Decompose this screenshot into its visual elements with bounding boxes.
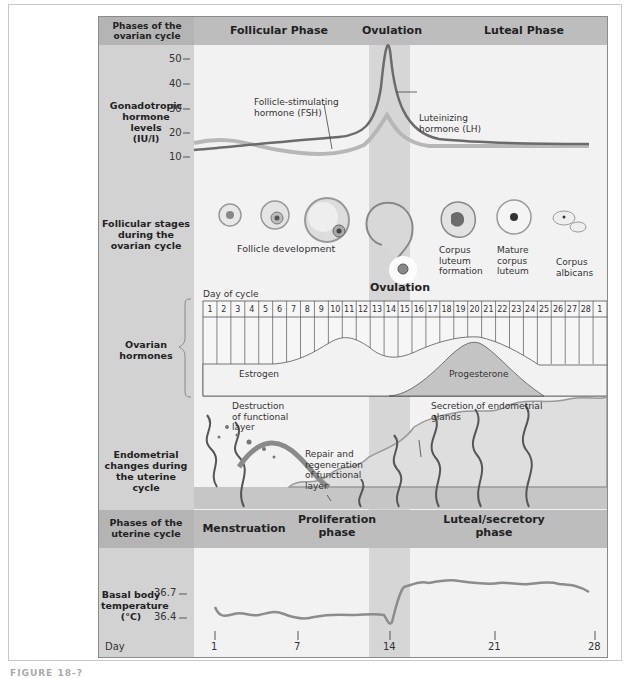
follicular-stages-row-label: Follicular stages during the ovarian cyc…: [101, 218, 191, 251]
label-line: Luteinizing: [419, 113, 481, 124]
day-cell: 4: [245, 302, 259, 317]
day-cell: 2: [217, 302, 231, 317]
day-cell: 18: [440, 302, 454, 317]
label-line: Mature: [497, 245, 529, 256]
label-line: Follicle-stimulating: [254, 97, 339, 108]
repair-label: Repair and regeneration of functional la…: [305, 449, 363, 491]
day-cell: 16: [412, 302, 426, 317]
day-tick-28: 28: [588, 641, 601, 652]
label-line: hormone (FSH): [254, 108, 339, 119]
label-line: uterine cycle: [101, 528, 191, 539]
progesterone-label: Progesterone: [449, 369, 509, 380]
label-line: albicans: [556, 268, 593, 279]
mature-corpus-luteum-label: Mature corpus luteum: [497, 245, 529, 277]
day-cell: 28: [579, 302, 593, 317]
uterine-phase-row-label: Phases of the uterine cycle: [101, 517, 191, 539]
day-cell: 21: [481, 302, 495, 317]
day-cell: 12: [356, 302, 370, 317]
label-line: phase: [292, 526, 382, 539]
follicle-stages: [219, 198, 586, 284]
label-line: the uterine: [101, 471, 191, 482]
label-line: regeneration: [305, 460, 363, 471]
label-line: Proliferation: [292, 513, 382, 526]
luteal-secretory-phase-label: Luteal/secretory phase: [439, 513, 549, 539]
day-cell: 23: [509, 302, 523, 317]
day-cell: 25: [537, 302, 551, 317]
temp-tick-36-4: 36.4: [154, 611, 176, 622]
label-line: ovarian cycle: [101, 240, 191, 251]
day-cell: 26: [551, 302, 565, 317]
figure-caption: FIGURE 18-?: [10, 668, 83, 678]
day-tick-7: 7: [294, 641, 300, 652]
label-line: Destruction: [232, 401, 288, 412]
day-cell: 20: [468, 302, 482, 317]
day-cell: 11: [342, 302, 356, 317]
follicle-development-label: Follicle development: [237, 244, 335, 255]
day-cell: 1: [203, 302, 217, 317]
day-cell: 3: [231, 302, 245, 317]
day-cell: 13: [370, 302, 384, 317]
endometrial-row-label: Endometrial changes during the uterine c…: [101, 449, 191, 493]
temperature-curve: [215, 580, 589, 623]
label-line: temperature: [101, 600, 161, 611]
fsh-curve: [194, 115, 589, 154]
label-line: Phases of the: [101, 517, 191, 528]
day-cell: 22: [495, 302, 509, 317]
destruction-label: Destruction of functional layer: [232, 401, 288, 433]
proliferation-phase-label: Proliferation phase: [292, 513, 382, 539]
day-cell: 19: [454, 302, 468, 317]
corpus-albicans-label: Corpus albicans: [556, 257, 593, 278]
label-line: formation: [439, 266, 483, 277]
day-tick-14: 14: [383, 641, 396, 652]
ovulation-stage-label: Ovulation: [365, 281, 435, 294]
fsh-label: Follicle-stimulating hormone (FSH): [254, 97, 339, 118]
day-cell: 10: [328, 302, 342, 317]
day-number-row: 1234567891011121314151617181920212223242…: [203, 302, 607, 317]
day-cell: 6: [273, 302, 287, 317]
label-line: luteum: [439, 256, 483, 267]
day-cell: 27: [565, 302, 579, 317]
day-cell: 17: [426, 302, 440, 317]
day-axis-label: Day: [105, 641, 125, 652]
day-cell: 1: [593, 302, 607, 317]
estrogen-label: Estrogen: [239, 369, 279, 380]
label-line: of functional: [305, 470, 363, 481]
label-line: Endometrial: [101, 449, 191, 460]
label-line: corpus: [497, 256, 529, 267]
label-line: (°C): [101, 611, 161, 622]
label-line: hormone (LH): [419, 124, 481, 135]
day-cell: 7: [287, 302, 301, 317]
label-line: Repair and: [305, 449, 363, 460]
label-line: glands: [431, 412, 542, 423]
label-line: Ovarian: [101, 339, 191, 350]
menstrual-cycle-figure: Phases of the ovarian cycle Follicular P…: [98, 16, 608, 658]
label-line: Luteal/secretory: [439, 513, 549, 526]
label-line: hormones: [101, 350, 191, 361]
lh-label: Luteinizing hormone (LH): [419, 113, 481, 134]
day-tick-21: 21: [488, 641, 501, 652]
ovarian-hormones-row-label: Ovarian hormones: [101, 339, 191, 361]
menstruation-label: Menstruation: [199, 522, 289, 535]
label-line: cycle: [101, 482, 191, 493]
label-line: layer: [305, 481, 363, 492]
label-line: changes during: [101, 460, 191, 471]
day-cell: 24: [523, 302, 537, 317]
label-line: during the: [101, 229, 191, 240]
day-of-cycle-label: Day of cycle: [203, 289, 258, 300]
label-line: layer: [232, 422, 288, 433]
secretion-label: Secretion of endometrial glands: [431, 401, 542, 422]
temp-tick-36-7: 36.7: [154, 587, 176, 598]
basal-temp-row-label: Basal body temperature (°C): [101, 589, 161, 622]
corpus-luteum-formation-label: Corpus luteum formation: [439, 245, 483, 277]
label-line: Secretion of endometrial: [431, 401, 542, 412]
label-line: Basal body: [101, 589, 161, 600]
label-line: Follicular stages: [101, 218, 191, 229]
label-line: Corpus: [556, 257, 593, 268]
day-cell: 9: [314, 302, 328, 317]
day-cell: 14: [384, 302, 398, 317]
diagram-graphics: [99, 17, 607, 657]
day-tick-1: 1: [211, 641, 217, 652]
label-line: phase: [439, 526, 549, 539]
label-line: of functional: [232, 412, 288, 423]
day-cell: 8: [300, 302, 314, 317]
